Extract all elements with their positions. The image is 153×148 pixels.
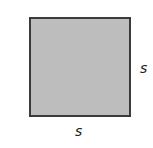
square-shape — [29, 17, 131, 117]
side-label-bottom: s — [75, 124, 82, 138]
side-label-right: s — [140, 61, 147, 75]
